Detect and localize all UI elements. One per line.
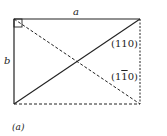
rectangle-diagram	[0, 0, 167, 136]
label-a: a	[73, 7, 79, 17]
plane-prefix: (1	[111, 71, 121, 82]
panel-label: (a)	[12, 123, 24, 132]
label-b: b	[4, 56, 10, 66]
label-plane-110: (110)	[111, 39, 138, 49]
plane-suffix: 0)	[128, 71, 138, 82]
label-plane-1bar10: (110)	[111, 72, 138, 82]
